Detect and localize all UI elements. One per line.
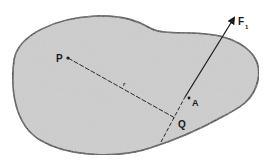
label-a: A — [192, 98, 199, 108]
rigid-body-diagram: P Q A r F 1 — [0, 0, 272, 163]
point-p-marker — [66, 56, 69, 59]
label-p: P — [56, 53, 63, 64]
label-q: Q — [178, 119, 186, 130]
label-f-subscript: 1 — [245, 24, 249, 30]
point-a-marker — [188, 97, 191, 100]
label-f: F — [238, 16, 244, 27]
